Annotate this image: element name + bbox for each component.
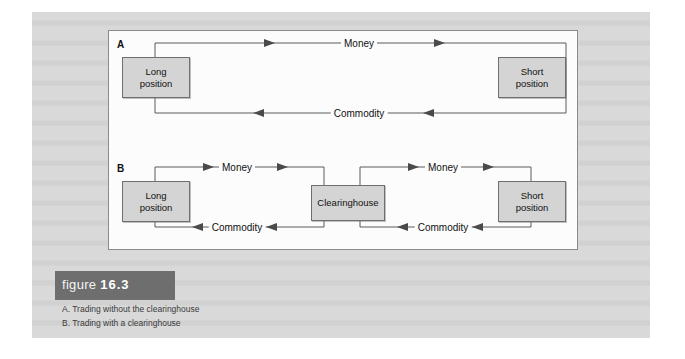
panel-b-node-long-position-label: Long position (140, 190, 173, 214)
figure-screenshot: A Long position Short position Money Com… (0, 0, 685, 359)
panel-a-node-long-position-label: Long position (140, 66, 173, 90)
figure-caption-title: figure 16.3 (62, 277, 130, 292)
figure-caption-line-a: A. Trading without the clearinghouse (62, 304, 200, 314)
panel-a-letter: A (117, 39, 124, 50)
panel-b-flow-label-commodity-left: Commodity (209, 222, 266, 233)
panel-a-node-short-position[interactable]: Short position (498, 57, 566, 98)
panel-b-flow-label-money-right: Money (425, 162, 461, 173)
panel-b-node-clearinghouse-label: Clearinghouse (317, 197, 378, 209)
panel-b-node-short-position[interactable]: Short position (498, 181, 566, 222)
figure-caption-word: figure (62, 277, 96, 292)
panel-a-flow-label-commodity: Commodity (331, 108, 388, 119)
panel-b-flow-label-commodity-right: Commodity (415, 222, 472, 233)
figure-caption-line-b: B. Trading with a clearinghouse (62, 318, 181, 328)
panel-a-node-short-position-label: Short position (516, 66, 549, 90)
panel-b-node-clearinghouse[interactable]: Clearinghouse (311, 185, 385, 221)
panel-a-node-long-position[interactable]: Long position (122, 57, 190, 98)
figure-panel: A Long position Short position Money Com… (108, 30, 578, 250)
panel-a-flow-label-money: Money (341, 38, 377, 49)
panel-b-flow-label-money-left: Money (219, 162, 255, 173)
panel-b-letter: B (117, 163, 124, 174)
figure-caption-number: 16.3 (100, 277, 129, 292)
panel-b-node-short-position-label: Short position (516, 190, 549, 214)
panel-b-node-long-position[interactable]: Long position (122, 181, 190, 222)
